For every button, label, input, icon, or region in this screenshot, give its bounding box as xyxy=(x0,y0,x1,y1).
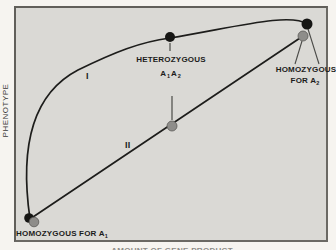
marker-heterozygous-curve-I xyxy=(165,32,175,42)
homozygous-a2-sub: 2 xyxy=(316,80,319,86)
curve-II-label: II xyxy=(125,141,130,150)
homozygous-a1-text: HOMOZYGOUS FOR A xyxy=(16,229,105,238)
genetics-phenotype-figure: I II HETEROZYGOUS A1A2 HOMOZYGOUS FOR A2… xyxy=(0,0,336,250)
marker-homozygous-a1-gray xyxy=(29,217,39,227)
homozygous-a2-label-line1: HOMOZYGOUS xyxy=(276,66,336,74)
y-axis-label: PHENOTYPE xyxy=(1,76,10,146)
allele-a1-sub: 1 xyxy=(167,73,171,79)
homozygous-a2-label-line2: FOR A2 xyxy=(291,77,320,85)
heterozygous-label: HETEROZYGOUS xyxy=(136,56,206,64)
allele-a2-sub: 2 xyxy=(178,73,182,79)
homozygous-a1-label: HOMOZYGOUS FOR A1 xyxy=(16,230,108,238)
marker-homozygous-a2-line-II xyxy=(298,31,308,41)
homozygous-a1-sub: 1 xyxy=(105,233,108,239)
curve-I-dominance xyxy=(26,20,307,219)
allele-a2-base: A xyxy=(171,69,178,78)
x-axis-label: AMOUNT OF GENE PRODUCT xyxy=(111,246,233,250)
heterozygous-genotype-label: A1A2 xyxy=(160,70,182,78)
allele-a1-base: A xyxy=(160,69,167,78)
marker-heterozygous-line-II xyxy=(167,121,177,131)
marker-homozygous-a2-curve-I xyxy=(302,19,313,30)
curve-I-label: I xyxy=(86,72,89,81)
chart-canvas xyxy=(0,0,336,250)
callout-line-homozygous-a2-gray xyxy=(295,41,302,64)
callout-line-homozygous-a2-black xyxy=(308,29,319,64)
homozygous-a2-text: FOR A xyxy=(291,76,317,85)
